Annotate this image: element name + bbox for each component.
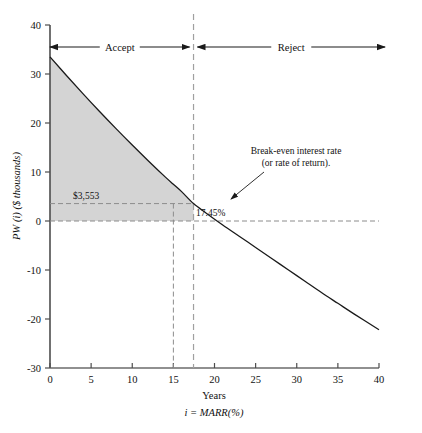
y-tick-label: -10 [27,265,41,276]
y-tick-label: 20 [31,118,42,129]
break-even-value-label: 17.45% [196,208,225,218]
pw-vs-marr-chart: 403020100-10-20-30 0510152025303540 Acce… [0,0,422,433]
x-tick-label: 5 [89,374,94,385]
x-tick-label: 40 [374,374,385,385]
break-even-note-line1: Break-even interest rate [251,146,342,156]
y-tick-label: -20 [27,314,41,325]
y-tick-label: -30 [27,363,41,374]
chart-canvas: 403020100-10-20-30 0510152025303540 Acce… [0,0,422,433]
accept-region-indicator: Accept [50,42,190,53]
break-even-note-line2: (or rate of return). [262,158,331,169]
reject-region-indicator: Reject [198,42,385,53]
accept-label: Accept [105,42,135,53]
x-tick-label: 20 [209,374,220,385]
y-tick-label: 10 [31,167,42,178]
x-tick-label: 25 [250,374,261,385]
x-tick-label: 0 [47,374,52,385]
x-axis-title: Years [202,390,225,401]
x-axis-ticks: 0510152025303540 [47,363,384,385]
x-tick-label: 35 [333,374,344,385]
reject-label: Reject [278,42,305,53]
break-even-pointer-arrow [231,172,264,199]
x-tick-label: 30 [292,374,303,385]
x-tick-label: 10 [127,374,138,385]
y-axis-ticks: 403020100-10-20-30 [27,20,50,374]
y-tick-label: 40 [31,20,42,31]
y-tick-label: 30 [31,69,42,80]
y-tick-label: 0 [36,216,41,227]
pw-value-label: $3,553 [73,191,99,201]
y-axis-title: PW (i) ($ thousands) [11,152,23,241]
x-axis-subtitle: i = MARR(%) [185,407,244,419]
x-tick-label: 15 [168,374,179,385]
